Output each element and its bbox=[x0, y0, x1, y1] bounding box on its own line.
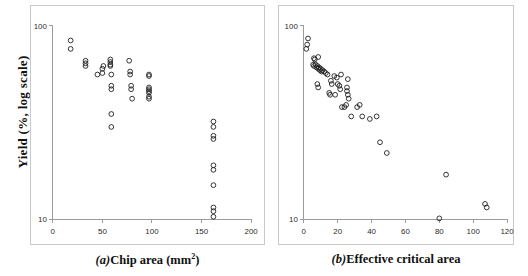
y-axis-label: Yield (%, log scale) bbox=[15, 0, 31, 227]
data-point bbox=[349, 114, 354, 119]
x-tick-label: 40 bbox=[367, 227, 376, 236]
data-point bbox=[378, 140, 383, 145]
panel-a-caption: (a)Chip area (mm2) bbox=[30, 252, 265, 268]
data-point bbox=[109, 125, 114, 130]
data-point bbox=[339, 72, 344, 77]
x-tick-label: 200 bbox=[245, 227, 259, 236]
data-point bbox=[95, 72, 100, 77]
data-point bbox=[127, 58, 132, 63]
data-point bbox=[211, 167, 216, 172]
data-point bbox=[211, 214, 216, 219]
data-point bbox=[101, 64, 106, 69]
scatter-plot-b: 10100020406080100120 bbox=[279, 6, 513, 244]
x-tick-label: 100 bbox=[467, 227, 481, 236]
data-point bbox=[130, 96, 135, 101]
panel-a-letter: (a) bbox=[96, 253, 111, 267]
data-point bbox=[68, 47, 73, 52]
data-point bbox=[128, 72, 133, 77]
data-point bbox=[211, 125, 216, 130]
x-tick-label: 120 bbox=[500, 227, 514, 236]
data-point bbox=[333, 92, 338, 97]
data-point bbox=[384, 151, 389, 156]
x-tick-label: 0 bbox=[51, 227, 56, 236]
x-tick-label: 80 bbox=[435, 227, 444, 236]
data-point bbox=[129, 87, 134, 92]
data-point bbox=[374, 114, 379, 119]
data-point bbox=[360, 114, 365, 119]
scatter-panel-b: 10100020406080100120 bbox=[278, 5, 514, 245]
x-tick-label: 100 bbox=[145, 227, 159, 236]
data-point bbox=[329, 82, 334, 87]
panel-b-caption: (b)Effective critical area bbox=[278, 252, 514, 267]
x-tick-label: 150 bbox=[195, 227, 209, 236]
data-point bbox=[211, 183, 216, 188]
scatter-panel-a: 10100050100150200 bbox=[30, 5, 265, 245]
x-tick-label: 50 bbox=[98, 227, 107, 236]
x-tick-label: 0 bbox=[302, 227, 307, 236]
data-point bbox=[109, 87, 114, 92]
panel-b-letter: (b) bbox=[332, 252, 347, 266]
data-point bbox=[109, 72, 114, 77]
panel-b-caption-text: Effective critical area bbox=[346, 252, 460, 266]
panel-a-caption-tail: ) bbox=[195, 253, 199, 267]
y-tick-label: 100 bbox=[34, 22, 48, 31]
data-point bbox=[211, 137, 216, 142]
figure-container: Yield (%, log scale) 10100050100150200 1… bbox=[0, 0, 528, 276]
x-tick-label: 60 bbox=[401, 227, 410, 236]
data-point bbox=[306, 36, 311, 41]
data-point bbox=[211, 163, 216, 168]
data-point bbox=[345, 77, 350, 82]
data-point bbox=[367, 117, 372, 122]
y-tick-label: 10 bbox=[38, 215, 47, 224]
data-point bbox=[68, 38, 73, 43]
y-tick-label: 10 bbox=[289, 215, 298, 224]
x-tick-label: 20 bbox=[333, 227, 342, 236]
data-point bbox=[329, 78, 334, 83]
y-tick-label: 100 bbox=[285, 22, 299, 31]
scatter-plot-a: 10100050100150200 bbox=[31, 6, 264, 244]
data-point bbox=[444, 172, 449, 177]
data-point bbox=[109, 112, 114, 117]
data-point bbox=[211, 119, 216, 124]
panel-a-caption-text: Chip area (mm bbox=[110, 253, 191, 267]
data-point bbox=[316, 55, 321, 60]
